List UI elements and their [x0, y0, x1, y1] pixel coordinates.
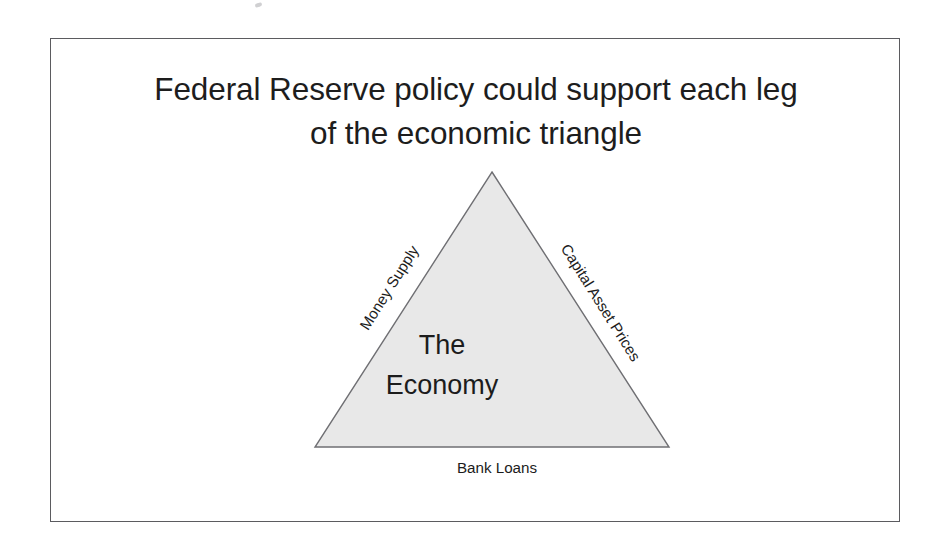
triangle-shape-icon — [51, 39, 901, 523]
scan-speck-artifact — [255, 2, 263, 8]
slide-frame: Federal Reserve policy could support eac… — [50, 38, 900, 522]
triangle-center-label: The Economy — [342, 325, 542, 405]
economic-triangle-diagram: The Economy Money Supply Capital Asset P… — [51, 39, 901, 523]
triangle-center-line-1: The — [342, 325, 542, 365]
triangle-edge-label-bank-loans: Bank Loans — [397, 459, 597, 476]
slide-canvas: Federal Reserve policy could support eac… — [0, 0, 947, 547]
triangle-center-line-2: Economy — [342, 365, 542, 405]
